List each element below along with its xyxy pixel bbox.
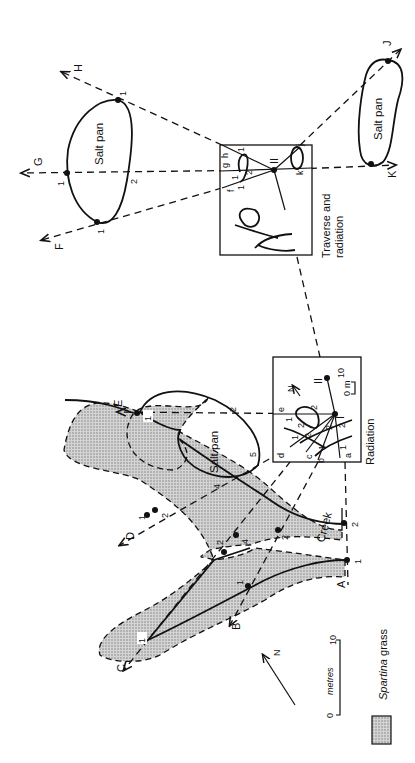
point-number: 4	[240, 539, 250, 544]
survey-point	[245, 583, 251, 589]
scale-unit: metres	[325, 667, 335, 695]
right-salt-pan-label: Salt pan	[372, 98, 384, 140]
point-number: 1	[236, 185, 246, 190]
ray-label-f: F	[53, 243, 65, 250]
traverse-caption-line1: Traverse and	[320, 194, 332, 258]
scale-zero: 0	[325, 713, 335, 718]
point-number: 1	[284, 417, 294, 422]
point-number: 2	[296, 423, 306, 428]
creek-salt-pan-label: Salt pan	[208, 431, 220, 473]
radiation-scale-ten: 10	[336, 368, 346, 378]
point-number: 5	[248, 452, 258, 457]
north-arrow-label: N	[272, 650, 282, 657]
point-number: 1	[290, 435, 300, 440]
point-number: 1	[353, 559, 363, 564]
survey-point	[94, 219, 100, 225]
small-label-d: d	[276, 453, 286, 458]
point-number: 2	[129, 179, 139, 184]
ray-label-g: G	[32, 157, 44, 166]
point-number: 2	[244, 170, 254, 175]
survey-point	[152, 507, 158, 513]
survey-point	[115, 97, 121, 103]
ray-line-f	[42, 188, 222, 240]
ray-label-a: A	[335, 580, 347, 588]
point-number: 2	[324, 425, 334, 430]
point-number: 1	[230, 175, 240, 180]
point-number: 2	[160, 513, 170, 518]
survey-point	[341, 520, 347, 526]
point-number: 4	[212, 484, 222, 489]
point-number: 2	[215, 540, 225, 545]
small-label-j: j	[295, 144, 305, 147]
radiation-scale-unit: m	[342, 381, 352, 389]
point-number: 2	[303, 433, 313, 438]
point-number: 1	[137, 515, 147, 520]
radiation-box: I II N 0 m 10 a b c d e 1 2 2 1 2 2 2 1 …	[273, 357, 361, 463]
survey-point	[221, 549, 227, 555]
point-number: 1	[338, 445, 348, 450]
station-two-point	[324, 375, 330, 381]
point-number: 1	[317, 445, 327, 450]
survey-diagram: Salt pan H G F 1 1 2 1 Salt pan J K II f	[0, 0, 415, 763]
point-number: 2	[337, 423, 347, 428]
traverse-caption-line2: radiation	[333, 216, 345, 258]
small-label-g: g	[220, 163, 230, 168]
small-label-b: b	[316, 458, 326, 463]
scale-bar	[336, 640, 340, 715]
point-number: 2	[228, 407, 238, 412]
station-two-label: II	[268, 158, 280, 164]
point-number: 2	[350, 522, 360, 527]
point-number-boxed: 1	[143, 416, 153, 421]
point-number: 1	[235, 580, 245, 585]
ray-label-j: J	[381, 41, 393, 47]
station-two-point	[271, 167, 277, 173]
ray-label-d: D	[124, 532, 136, 540]
legend-label: Spartina grass	[377, 629, 389, 700]
ray-label-h: H	[72, 64, 84, 72]
ray-label-b: B	[230, 623, 242, 630]
point-number: 1	[56, 181, 66, 186]
point-number-boxed: 1	[137, 638, 147, 643]
legend-swatch	[372, 716, 391, 744]
legend-label-rest: grass	[377, 629, 389, 659]
traverse-box: II f g h j k 1 1 2 1	[220, 144, 312, 255]
top-salt-pan-label: Salt pan	[93, 123, 105, 165]
point-number: 1	[236, 147, 246, 152]
survey-point	[385, 58, 391, 64]
point-number: 2	[309, 405, 319, 410]
small-label-h: h	[220, 153, 230, 158]
station-two-label: II	[312, 378, 324, 384]
small-label-e: e	[276, 407, 286, 412]
small-label-k: k	[295, 170, 305, 175]
traverse-connector	[297, 257, 320, 357]
survey-point	[344, 557, 350, 563]
top-salt-pan-group: Salt pan	[67, 100, 132, 223]
legend-label-italic: Spartina	[377, 659, 389, 700]
small-label-c: c	[304, 454, 314, 459]
survey-point	[134, 410, 140, 416]
right-salt-pan-group: Salt pan	[359, 60, 403, 166]
scale-ten: 10	[328, 635, 338, 645]
north-arrow-icon	[263, 655, 295, 705]
ray-label-e: E	[112, 400, 124, 407]
point-number: 2	[280, 535, 290, 540]
ray-label-k: K	[386, 170, 398, 178]
point-number: 1	[96, 229, 106, 234]
survey-point	[64, 170, 70, 176]
ray-label-c: C	[115, 664, 127, 672]
radiation-caption: Radiation	[364, 419, 376, 465]
point-number: 1	[118, 91, 128, 96]
small-label-a: a	[343, 453, 353, 458]
radiation-scale-zero: 0	[342, 391, 352, 396]
survey-point	[233, 532, 239, 538]
ray-line-h	[62, 72, 222, 145]
survey-point	[275, 527, 281, 533]
station-one-label: I	[334, 416, 346, 419]
survey-point	[368, 161, 374, 167]
